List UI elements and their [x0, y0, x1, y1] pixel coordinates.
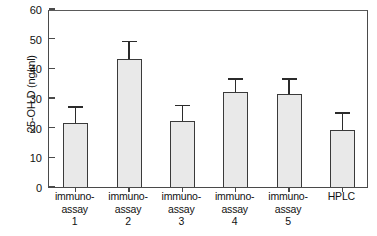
x-category-label: HPLC — [315, 190, 368, 203]
y-tick-mark — [49, 157, 55, 159]
y-tick-label-0: 0 — [16, 183, 42, 194]
error-bar-cap — [68, 106, 83, 108]
bar — [170, 121, 195, 187]
y-tick-label-10: 10 — [16, 153, 42, 164]
y-tick-label-30: 30 — [16, 94, 42, 105]
x-category-label-line: assay — [261, 203, 314, 216]
error-bar-line — [288, 79, 290, 94]
x-category-label-line: assay — [48, 203, 101, 216]
x-category-label: immuno-assay5 — [261, 190, 314, 228]
error-bar-line — [182, 105, 184, 121]
y-tick-mark — [49, 68, 55, 70]
x-category-label: immuno-assay2 — [101, 190, 154, 228]
x-category-label-line: 1 — [48, 215, 101, 228]
y-tick-mark — [49, 186, 55, 188]
x-category-label-line: 4 — [208, 215, 261, 228]
error-bar-line — [75, 107, 77, 123]
error-bar-cap — [122, 41, 137, 43]
x-category-label-line: assay — [101, 203, 154, 216]
x-category-label-line: 2 — [101, 215, 154, 228]
y-tick-label-20: 20 — [16, 123, 42, 134]
y-tick-mark — [49, 38, 55, 40]
bar — [277, 94, 302, 187]
error-bar-cap — [335, 112, 350, 114]
error-bar-line — [128, 42, 130, 60]
x-category-label-line: 3 — [155, 215, 208, 228]
bar-chart-figure: 25-OH D (ng/ml) 0102030405060 immuno-ass… — [0, 0, 377, 236]
error-bar-cap — [175, 105, 190, 107]
x-category-label-line: HPLC — [315, 190, 368, 203]
error-bar-line — [235, 79, 237, 92]
x-category-label: immuno-assay3 — [155, 190, 208, 228]
x-category-label-line: assay — [155, 203, 208, 216]
plot-area — [48, 10, 368, 188]
y-tick-label-50: 50 — [16, 34, 42, 45]
error-bar-line — [342, 113, 344, 130]
bar — [223, 92, 248, 187]
y-axis-tick-labels: 0102030405060 — [12, 0, 42, 236]
x-category-label-line: 5 — [261, 215, 314, 228]
y-tick-mark — [49, 8, 55, 10]
x-category-label-line: immuno- — [48, 190, 101, 203]
plot-inner — [49, 11, 367, 187]
y-tick-mark — [49, 127, 55, 129]
bar — [117, 59, 142, 187]
error-bar-cap — [228, 78, 243, 80]
y-tick-mark — [49, 97, 55, 99]
x-category-label-line: immuno- — [155, 190, 208, 203]
bar — [63, 123, 88, 187]
x-category-label: immuno-assay4 — [208, 190, 261, 228]
bar — [330, 130, 355, 187]
x-category-label: immuno-assay1 — [48, 190, 101, 228]
y-tick-label-40: 40 — [16, 64, 42, 75]
x-category-label-line: immuno- — [208, 190, 261, 203]
x-category-label-line: immuno- — [261, 190, 314, 203]
x-axis-category-labels: immuno-assay1immuno-assay2immuno-assay3i… — [48, 190, 368, 236]
x-category-label-line: immuno- — [101, 190, 154, 203]
y-tick-label-60: 60 — [16, 5, 42, 16]
x-category-label-line: assay — [208, 203, 261, 216]
error-bar-cap — [282, 78, 297, 80]
